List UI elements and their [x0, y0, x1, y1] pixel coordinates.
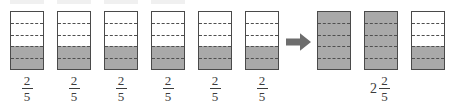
bar-divider [412, 58, 444, 59]
operand-bar-group [151, 11, 185, 70]
operand-fraction-label: 2 5 [245, 74, 279, 103]
bar-shaded-region [365, 12, 397, 69]
bar-divider [318, 35, 350, 36]
bar-divider [318, 23, 350, 24]
fraction-bar-diagram: 2 5 2 5 [0, 0, 454, 108]
fraction-bar [317, 11, 351, 70]
fraction-numerator: 2 [69, 74, 80, 87]
fraction-denominator: 5 [22, 90, 33, 103]
fraction-value: 2 5 [257, 74, 268, 103]
mixed-number-whole: 2 [370, 82, 377, 96]
bar-divider [11, 46, 43, 47]
fraction-denominator: 5 [69, 90, 80, 103]
bar-divider [105, 35, 137, 36]
scan-artifact [10, 0, 44, 4]
bar-divider [105, 46, 137, 47]
bar-divider [246, 46, 278, 47]
mixed-number-value: 2 2 5 [370, 74, 390, 103]
operand-fraction-label: 2 5 [10, 74, 44, 103]
fraction-numerator: 2 [379, 74, 390, 87]
bar-divider [365, 23, 397, 24]
bar-divider [11, 58, 43, 59]
operand-bar-group [10, 11, 44, 70]
bar-divider [318, 58, 350, 59]
result-bar-group [411, 11, 445, 70]
bar-divider [199, 58, 231, 59]
fraction-bar [104, 11, 138, 70]
bar-divider [58, 58, 90, 59]
bar-shaded-region [318, 12, 350, 69]
result-bar-group [364, 11, 398, 70]
fraction: 2 5 [163, 74, 174, 103]
operand-fraction-label: 2 5 [104, 74, 138, 103]
fraction-bar [151, 11, 185, 70]
bar-divider [105, 23, 137, 24]
bar-divider [412, 23, 444, 24]
fraction-bar [364, 11, 398, 70]
fraction-denominator: 5 [257, 90, 268, 103]
bar-divider [11, 35, 43, 36]
fraction-bar [198, 11, 232, 70]
bar-divider [412, 46, 444, 47]
operand-bar-group [245, 11, 279, 70]
bar-divider [246, 35, 278, 36]
fraction-value: 2 5 [22, 74, 33, 103]
bar-divider [246, 58, 278, 59]
operand-fraction-label: 2 5 [198, 74, 232, 103]
bar-divider [412, 35, 444, 36]
fraction: 2 5 [257, 74, 268, 103]
bar-divider [11, 23, 43, 24]
scan-artifact [104, 0, 138, 4]
fraction-bar [57, 11, 91, 70]
bar-divider [58, 46, 90, 47]
bar-divider [152, 46, 184, 47]
operand-bar-group [198, 11, 232, 70]
fraction: 2 5 [69, 74, 80, 103]
bar-divider [105, 58, 137, 59]
fraction-value: 2 5 [210, 74, 221, 103]
bar-divider [365, 35, 397, 36]
bar-divider [318, 46, 350, 47]
result-bar-group [317, 11, 351, 70]
fraction: 2 5 [22, 74, 33, 103]
fraction: 2 5 [210, 74, 221, 103]
fraction-numerator: 2 [257, 74, 268, 87]
bar-divider [246, 23, 278, 24]
operand-fraction-label: 2 5 [57, 74, 91, 103]
fraction-value: 2 5 [163, 74, 174, 103]
operand-fraction-label: 2 5 [151, 74, 185, 103]
scan-artifact [151, 0, 185, 4]
fraction-bar [10, 11, 44, 70]
bar-divider [152, 35, 184, 36]
fraction-denominator: 5 [116, 90, 127, 103]
result-fraction-label: 2 2 5 [315, 74, 445, 103]
scan-artifact [57, 0, 91, 4]
bar-divider [199, 23, 231, 24]
operand-bar-group [57, 11, 91, 70]
fraction-bar [245, 11, 279, 70]
bar-divider [58, 35, 90, 36]
bar-divider [199, 35, 231, 36]
fraction-numerator: 2 [22, 74, 33, 87]
bar-divider [199, 46, 231, 47]
bar-divider [152, 58, 184, 59]
fraction: 2 5 [379, 74, 390, 103]
fraction-bar [411, 11, 445, 70]
fraction-value: 2 5 [116, 74, 127, 103]
bar-divider [365, 58, 397, 59]
fraction-value: 2 5 [69, 74, 80, 103]
fraction-denominator: 5 [163, 90, 174, 103]
fraction-numerator: 2 [210, 74, 221, 87]
fraction-denominator: 5 [379, 90, 390, 103]
arrow-right-icon [286, 32, 312, 52]
fraction-denominator: 5 [210, 90, 221, 103]
bar-divider [58, 23, 90, 24]
bar-divider [365, 46, 397, 47]
operand-bar-group [104, 11, 138, 70]
bar-divider [152, 23, 184, 24]
fraction: 2 5 [116, 74, 127, 103]
fraction-numerator: 2 [163, 74, 174, 87]
fraction-numerator: 2 [116, 74, 127, 87]
